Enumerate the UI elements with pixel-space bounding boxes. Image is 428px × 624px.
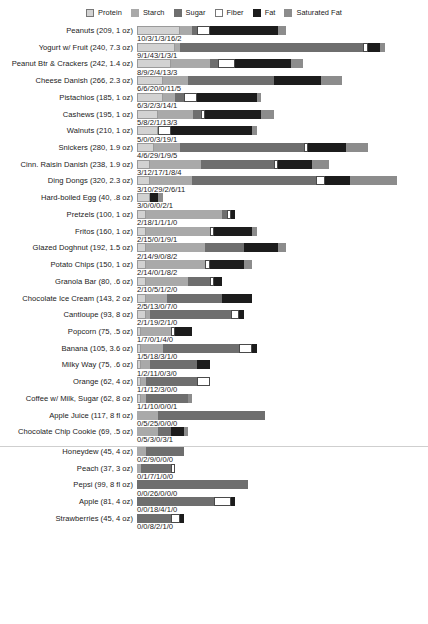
bar-segment-satfat: [350, 176, 397, 185]
chart-row: Cashews (195, 1 oz)5/8/2/1/13/3: [0, 110, 428, 127]
bar-segment-fat: [222, 294, 252, 303]
row-label: Fritos (160, 1 oz): [75, 227, 133, 237]
chart-row: Chocolate Ice Cream (143, 2 oz)2/5/13/0/…: [0, 294, 428, 311]
chart-row: Peanuts (209, 1 oz)10/3/1/3/16/2: [0, 26, 428, 43]
chart-row: Honeydew (45, 4 oz)0/2/9/0/0/0: [0, 447, 428, 464]
row-values: 0/0/8/2/1/0: [137, 522, 173, 531]
bar-segment-fat: [231, 497, 235, 506]
bar-segment-satfat: [184, 427, 188, 436]
row-label: Chocolate Ice Cream (143, 2 oz): [22, 294, 133, 304]
bar-segment-fat: [205, 110, 261, 119]
row-label: Strawberries (45, 4 oz): [56, 514, 134, 524]
legend-item-starch: Starch: [131, 8, 165, 17]
bar-segment-fat: [210, 26, 278, 35]
legend-swatch-satfat-icon: [284, 9, 292, 17]
row-label: Pepsi (99, 8 fl oz): [73, 480, 133, 490]
row-label: Cashews (195, 1 oz): [63, 110, 133, 120]
legend-item-fiber: Fiber: [215, 8, 244, 17]
chart-row: Peanut Btr & Crackers (242, 1.4 oz)8/9/2…: [0, 59, 428, 76]
bar-segment-satfat: [346, 143, 367, 152]
chart-row: Snickers (280, 1.9 oz)4/6/29/1/9/5: [0, 143, 428, 160]
bar-segment-satfat: [380, 43, 384, 52]
bar-segment-sugar: [201, 160, 274, 169]
row-label: Pretzels (100, 1 oz): [67, 210, 133, 220]
legend-label-fat: Fat: [265, 8, 276, 17]
row-label: Banana (105, 3.6 oz): [61, 344, 133, 354]
row-label: Granola Bar (80, .6 oz): [55, 277, 133, 287]
chart-row: Orange (62, 4 oz)1/1/12/3/0/0: [0, 377, 428, 394]
legend-label-fiber: Fiber: [227, 8, 244, 17]
bar-segment-satfat: [257, 93, 261, 102]
bar-segment-sugar: [180, 43, 364, 52]
bar-segment-satfat: [261, 110, 274, 119]
chart-row: Hard-boiled Egg (40, .8 oz)3/0/0/0/2/1: [0, 193, 428, 210]
row-label: Glazed Doghnut (192, 1.5 oz): [33, 243, 133, 253]
bar-segment-fat: [308, 143, 346, 152]
chart-rows: Peanuts (209, 1 oz)10/3/1/3/16/2Yogurt w…: [0, 26, 428, 531]
row-label: Peanuts (209, 1 oz): [66, 26, 133, 36]
chart-row: Coffee w/ Milk, Sugar (62, 8 oz)1/1/10/0…: [0, 394, 428, 411]
legend-swatch-starch-icon: [131, 9, 139, 17]
bar-segment-sugar: [193, 110, 202, 119]
bar-segment-sugar: [180, 143, 304, 152]
legend-swatch-sugar-icon: [174, 9, 182, 17]
row-label: Milky Way (75, .6 oz): [62, 360, 133, 370]
chart-legend: ProteinStarchSugarFiberFatSaturated Fat: [0, 8, 428, 17]
chart-row: Chocolate Chip Cookie (69, .5 oz)0/5/3/0…: [0, 427, 428, 444]
bar-segment-fat: [235, 59, 291, 68]
bar-segment-fat: [252, 344, 256, 353]
chart-row: Peach (37, 3 oz)0/1/7/1/0/0: [0, 464, 428, 481]
row-label: Ding Dongs (320, 2.3 oz): [48, 176, 133, 186]
bar-segment-fat: [214, 227, 252, 236]
chart-row: Glazed Doghnut (192, 1.5 oz)2/14/9/0/8/2: [0, 243, 428, 260]
chart-row: Milky Way (75, .6 oz)1/2/11/0/3/0: [0, 360, 428, 377]
bar-segment-fiber: [218, 59, 235, 68]
legend-item-fat: Fat: [253, 8, 276, 17]
bar-segment-satfat: [278, 243, 287, 252]
bar-segment-fat: [210, 260, 244, 269]
chart-row: Potato Chips (150, 1 oz)2/14/0/1/8/2: [0, 260, 428, 277]
bar-segment-fiber: [197, 26, 210, 35]
bar-segment-fiber: [197, 377, 210, 386]
chart-row: Cheese Danish (266, 2.3 oz)6/6/20/0/11/5: [0, 76, 428, 93]
bar-segment-satfat: [188, 394, 192, 403]
row-label: Peach (37, 3 oz): [77, 464, 133, 474]
bar-segment-fiber: [316, 176, 325, 185]
legend-label-starch: Starch: [143, 8, 165, 17]
legend-label-satfat: Saturated Fat: [296, 8, 341, 17]
row-label: Potato Chips (150, 1 oz): [50, 260, 133, 270]
bar-segment-fat: [239, 310, 243, 319]
row-label: Cantloupe (93, 8 oz): [64, 310, 133, 320]
legend-swatch-fiber-icon: [215, 9, 223, 17]
row-label: Hard-boiled Egg (40, .8 oz): [41, 193, 133, 203]
bar-segment-fiber: [214, 497, 231, 506]
legend-item-satfat: Saturated Fat: [284, 8, 341, 17]
row-label: Snickers (280, 1.9 oz): [58, 143, 133, 153]
row-label: Honeydew (45, 4 oz): [62, 447, 133, 457]
chart-row: Pistachios (185, 1 oz)6/3/2/3/14/1: [0, 93, 428, 110]
chart-row: Cantloupe (93, 8 oz)2/1/19/2/1/0: [0, 310, 428, 327]
legend-swatch-protein-icon: [86, 9, 94, 17]
row-values: 0/5/3/0/3/1: [137, 435, 173, 444]
chart-row: Popcorn (75, .5 oz)1/7/0/1/4/0: [0, 327, 428, 344]
bar-segment-sugar: [188, 277, 209, 286]
bar-segment-satfat: [252, 126, 256, 135]
row-label: Apple Juice (117, 8 fl oz): [49, 411, 133, 421]
nutrition-stacked-bar-chart: ProteinStarchSugarFiberFatSaturated Fat …: [0, 0, 428, 624]
chart-row: Walnuts (210, 1 oz)5/0/0/3/19/1: [0, 126, 428, 143]
chart-row: Apple (81, 4 oz)0/0/18/4/1/0: [0, 497, 428, 514]
row-label: Coffee w/ Milk, Sugar (62, 8 oz): [26, 394, 133, 404]
row-label: Orange (62, 4 oz): [73, 377, 133, 387]
row-label: Cheese Danish (266, 2.3 oz): [36, 76, 133, 86]
chart-row: Yogurt w/ Fruit (240, 7.3 oz)9/1/43/1/3/…: [0, 43, 428, 60]
bar-segment-satfat: [278, 26, 287, 35]
legend-swatch-fat-icon: [253, 9, 261, 17]
bar-segment-sugar: [205, 243, 243, 252]
row-label: Popcorn (75, .5 oz): [68, 327, 133, 337]
chart-row: Pretzels (100, 1 oz)2/18/1/1/1/0: [0, 210, 428, 227]
row-label: Cinn. Raisin Danish (238, 1.9 oz): [21, 160, 133, 170]
row-label: Peanut Btr & Crackers (242, 1.4 oz): [12, 59, 133, 69]
bar-segment-fat: [175, 327, 192, 336]
legend-label-protein: Protein: [98, 8, 122, 17]
bar-segment-satfat: [291, 59, 304, 68]
